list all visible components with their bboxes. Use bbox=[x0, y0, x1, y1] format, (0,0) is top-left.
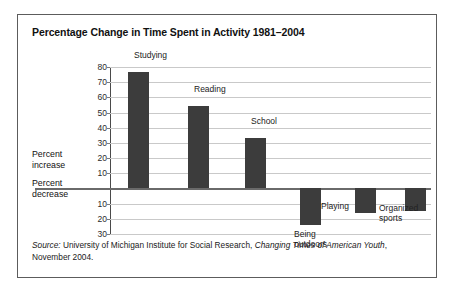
y-tick-minus-10: 10 bbox=[98, 199, 107, 209]
bar-label-organized-sports: Organizedsports bbox=[379, 203, 418, 223]
y-tick-mark-70 bbox=[107, 82, 110, 83]
y-tick-40: 40 bbox=[98, 123, 107, 133]
bar-label-line1: Studying bbox=[134, 50, 167, 60]
y-tick-30: 30 bbox=[98, 138, 107, 148]
figure-border: Percentage Change in Time Spent in Activ… bbox=[17, 14, 437, 278]
y-tick-50: 50 bbox=[98, 108, 107, 118]
bar-label-line1: Organized bbox=[379, 203, 418, 213]
y-tick-minus-30: 30 bbox=[98, 229, 107, 239]
y-tick-mark-20 bbox=[107, 158, 110, 159]
gridline-30 bbox=[110, 143, 431, 144]
plot-area: 8070605040302010102030StudyingReadingSch… bbox=[110, 67, 431, 234]
gridline-80 bbox=[110, 67, 431, 68]
y-tick-mark-minus-30 bbox=[107, 234, 110, 235]
source-label: Source: bbox=[32, 240, 61, 250]
source-title: Changing Times of American Youth bbox=[255, 240, 385, 250]
y-tick-mark-60 bbox=[107, 97, 110, 98]
chart-title: Percentage Change in Time Spent in Activ… bbox=[32, 26, 304, 38]
y-tick-mark-50 bbox=[107, 113, 110, 114]
y-tick-mark-40 bbox=[107, 128, 110, 129]
bar-label-studying: Studying bbox=[134, 50, 167, 60]
gridline-40 bbox=[110, 128, 431, 129]
axis-group-percent-increase: Percent increase bbox=[32, 149, 65, 171]
gridline-50 bbox=[110, 113, 431, 114]
y-tick-80: 80 bbox=[98, 62, 107, 72]
bar-studying bbox=[128, 72, 149, 189]
percent-decrease-line1: Percent bbox=[32, 178, 68, 189]
source-note: Source: University of Michigan Institute… bbox=[32, 240, 424, 263]
source-body: University of Michigan Institute for Soc… bbox=[61, 240, 255, 250]
y-tick-mark-80 bbox=[107, 67, 110, 68]
bar-label-line1: Reading bbox=[194, 84, 226, 94]
y-tick-60: 60 bbox=[98, 92, 107, 102]
bar-label-school: School bbox=[251, 116, 277, 126]
bar-label-line1: Being bbox=[294, 229, 327, 239]
bar-school bbox=[245, 138, 266, 188]
y-tick-mark-minus-20 bbox=[107, 219, 110, 220]
bar-label-line2: sports bbox=[379, 213, 418, 223]
percent-decrease-line2: decrease bbox=[32, 189, 68, 200]
chart-figure: Percentage Change in Time Spent in Activ… bbox=[0, 0, 454, 292]
percent-increase-line1: Percent bbox=[32, 149, 65, 160]
y-tick-mark-10 bbox=[107, 173, 110, 174]
gridline-60 bbox=[110, 97, 431, 98]
y-tick-70: 70 bbox=[98, 77, 107, 87]
y-tick-20: 20 bbox=[98, 153, 107, 163]
bar-reading bbox=[188, 106, 209, 188]
y-tick-mark-minus-10 bbox=[107, 204, 110, 205]
y-axis-line bbox=[110, 67, 111, 234]
y-tick-10: 10 bbox=[98, 168, 107, 178]
bar-label-line1: School bbox=[251, 116, 277, 126]
gridline-70 bbox=[110, 82, 431, 83]
gridline-20 bbox=[110, 158, 431, 159]
y-tick-minus-20: 20 bbox=[98, 214, 107, 224]
gridline-10 bbox=[110, 173, 431, 174]
y-tick-mark-30 bbox=[107, 143, 110, 144]
bar-playing bbox=[355, 188, 376, 212]
bar-label-playing: Playing bbox=[321, 201, 349, 211]
bar-label-line1: Playing bbox=[321, 201, 349, 211]
gridline-minus-30 bbox=[110, 234, 431, 235]
percent-increase-line2: increase bbox=[32, 160, 65, 171]
bar-being-outdoors bbox=[300, 188, 321, 224]
bar-label-reading: Reading bbox=[194, 84, 226, 94]
